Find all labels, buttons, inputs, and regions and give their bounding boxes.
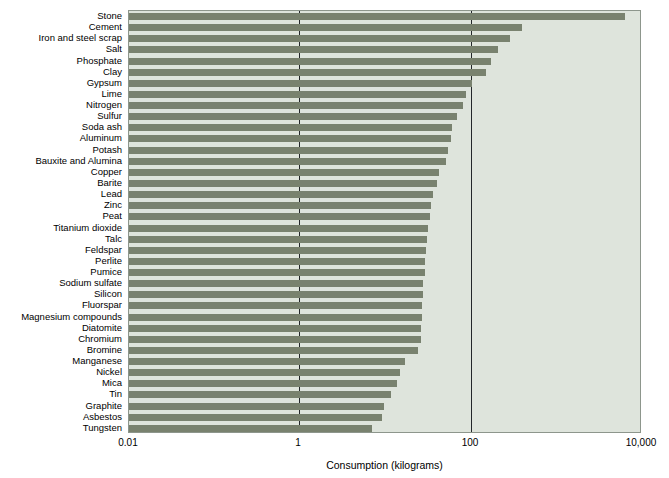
category-label: Manganese [0,355,125,367]
bar-row [129,133,640,145]
bar-row [129,289,640,301]
category-label: Silicon [0,288,125,300]
y-axis-category-labels: StoneCementIron and steel scrapSaltPhosp… [0,10,125,433]
bar-barite [129,180,437,187]
category-label: Nitrogen [0,99,125,111]
category-label: Mica [0,377,125,389]
category-label: Tin [0,388,125,400]
category-label: Copper [0,166,125,178]
chart-root: StoneCementIron and steel scrapSaltPhosp… [0,0,669,478]
x-tick-label: 100 [462,437,479,448]
category-label: Lime [0,88,125,100]
bar-cement [129,24,522,31]
category-label: Bromine [0,344,125,356]
category-label: Pumice [0,266,125,278]
bar-sodium-sulfate [129,280,423,287]
plot-area [128,10,641,433]
bar-row [129,33,640,45]
bar-phosphate [129,58,491,65]
category-label: Talc [0,233,125,245]
bar-row [129,78,640,90]
category-label: Zinc [0,199,125,211]
bar-row [129,200,640,212]
category-label: Fluorspar [0,299,125,311]
bar-row [129,211,640,223]
bar-row [129,223,640,235]
bar-row [129,145,640,157]
x-tick-label: 10,000 [626,437,657,448]
x-tick-label: 0.01 [118,437,137,448]
bar-row [129,356,640,368]
bar-row [129,412,640,424]
category-label: Sulfur [0,110,125,122]
category-label: Peat [0,210,125,222]
bar-clay [129,69,486,76]
bar-row [129,22,640,34]
category-label: Chromium [0,333,125,345]
bar-row [129,401,640,413]
category-label: Potash [0,144,125,156]
bar-nickel [129,369,400,376]
category-label: Aluminum [0,132,125,144]
bar-row [129,100,640,112]
bar-row [129,111,640,123]
bar-row [129,167,640,179]
bar-row [129,89,640,101]
bar-row [129,312,640,324]
bar-mica [129,380,397,387]
bar-chromium [129,336,421,343]
bar-gypsum [129,80,472,87]
bar-row [129,234,640,246]
category-label: Diatomite [0,322,125,334]
bar-silicon [129,291,423,298]
bar-pumice [129,269,425,276]
bar-lead [129,191,433,198]
bar-manganese [129,358,405,365]
x-axis-ticks: 0.01110010,000 [0,437,669,453]
bar-nitrogen [129,102,463,109]
bar-diatomite [129,325,421,332]
category-label: Salt [0,43,125,55]
bar-titanium-dioxide [129,225,428,232]
bar-lime [129,91,466,98]
bar-graphite [129,403,384,410]
category-label: Iron and steel scrap [0,32,125,44]
bar-stone [129,13,625,20]
bar-row [129,178,640,190]
bar-row [129,122,640,134]
category-label: Perlite [0,255,125,267]
bar-row [129,345,640,357]
bar-row [129,378,640,390]
bar-row [129,367,640,379]
bar-row [129,278,640,290]
x-axis-title: Consumption (kilograms) [128,459,641,471]
bar-row [129,44,640,56]
bar-row [129,256,640,268]
bar-perlite [129,258,425,265]
bar-bauxite-and-alumina [129,158,446,165]
bar-bromine [129,347,418,354]
bar-row [129,189,640,201]
bar-row [129,267,640,279]
bar-row [129,56,640,68]
bar-copper [129,169,439,176]
bar-rows [129,11,640,432]
category-label: Lead [0,188,125,200]
bar-row [129,323,640,335]
category-label: Clay [0,66,125,78]
bar-aluminum [129,135,451,142]
bar-row [129,300,640,312]
category-label: Sodium sulfate [0,277,125,289]
category-label: Asbestos [0,411,125,423]
bar-row [129,423,640,435]
category-label: Cement [0,21,125,33]
category-label: Titanium dioxide [0,222,125,234]
bar-potash [129,147,448,154]
x-tick-label: 1 [295,437,301,448]
category-label: Bauxite and Alumina [0,155,125,167]
bar-fluorspar [129,302,422,309]
bar-row [129,389,640,401]
bar-talc [129,236,427,243]
category-label: Gypsum [0,77,125,89]
bar-zinc [129,202,431,209]
